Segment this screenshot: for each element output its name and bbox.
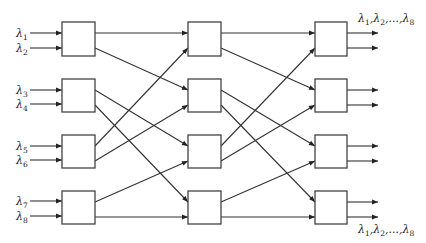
link-stage2-to-stage3-5 bbox=[221, 48, 315, 146]
link-stage1-to-stage2-6 bbox=[95, 105, 188, 161]
link-stage1-to-stage2-2 bbox=[95, 48, 188, 90]
switching-network-diagram: λ1λ2λ3λ4λ5λ6λ7λ8λ1,λ2,...,λ8λ1,λ2,...,λ8 bbox=[0, 0, 426, 243]
connection-wires bbox=[30, 33, 378, 217]
input-label-lambda-2: λ2 bbox=[15, 42, 28, 57]
switch-box-stage2-row1 bbox=[188, 22, 221, 56]
link-stage1-to-stage2-4 bbox=[95, 105, 188, 202]
input-label-lambda-4: λ4 bbox=[15, 98, 28, 113]
switch-box-stage1-row4 bbox=[62, 191, 95, 224]
switch-box-stage2-row4 bbox=[188, 191, 221, 224]
switch-box-stage1-row1 bbox=[62, 22, 95, 56]
link-stage2-to-stage3-6 bbox=[221, 105, 315, 161]
switch-box-stage3-row3 bbox=[315, 135, 347, 168]
input-label-lambda-1: λ1 bbox=[15, 27, 28, 42]
input-label-lambda-3: λ3 bbox=[15, 84, 28, 99]
link-stage1-to-stage2-5 bbox=[95, 48, 188, 146]
switch-box-stage1-row2 bbox=[62, 79, 95, 112]
link-stage2-to-stage3-4 bbox=[221, 105, 315, 202]
link-stage1-to-stage2-3 bbox=[95, 90, 188, 146]
switch-box-stage3-row2 bbox=[315, 79, 347, 112]
output-label-top: λ1,λ2,...,λ8 bbox=[357, 12, 414, 27]
link-stage2-to-stage3-7 bbox=[221, 161, 315, 202]
switch-box-stage3-row1 bbox=[315, 22, 347, 56]
output-label-bottom: λ1,λ2,...,λ8 bbox=[357, 223, 414, 238]
link-stage2-to-stage3-3 bbox=[221, 90, 315, 146]
input-label-lambda-6: λ6 bbox=[15, 154, 28, 169]
switch-box-stage2-row2 bbox=[188, 79, 221, 112]
input-label-lambda-8: λ8 bbox=[15, 210, 28, 225]
link-stage1-to-stage2-7 bbox=[95, 161, 188, 202]
switch-box-stage1-row3 bbox=[62, 135, 95, 168]
switch-box-stage3-row4 bbox=[315, 191, 347, 224]
switch-box-stage2-row3 bbox=[188, 135, 221, 168]
input-label-lambda-5: λ5 bbox=[15, 140, 28, 155]
input-label-lambda-7: λ7 bbox=[15, 195, 28, 210]
link-stage2-to-stage3-2 bbox=[221, 48, 315, 90]
